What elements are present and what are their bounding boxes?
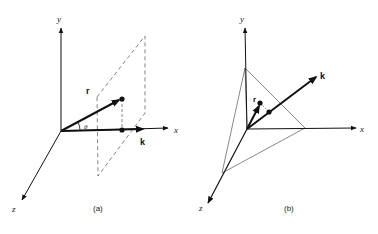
r-tip-point — [119, 96, 124, 101]
r-label: r — [86, 86, 90, 96]
z-axis-label: z — [11, 204, 16, 214]
z-axis-label: z — [198, 203, 203, 213]
k-label: k — [140, 137, 146, 147]
vector-plane-diagram: y x z r θ k (a) y x z r k (b) — [0, 0, 378, 234]
k-label: k — [320, 71, 326, 81]
k-vector — [247, 77, 316, 129]
r-label: r — [253, 95, 256, 104]
k-vector — [61, 129, 143, 131]
r-vector — [61, 100, 119, 131]
theta-label: θ — [84, 123, 88, 131]
panel-a-caption: (a) — [93, 204, 103, 213]
x-axis-label: x — [173, 125, 178, 135]
x-axis-label: x — [359, 124, 364, 134]
z-axis — [22, 131, 61, 200]
projection-point — [119, 127, 124, 132]
r-tip-point — [257, 100, 262, 105]
panel-b-caption: (b) — [284, 204, 294, 213]
dashed-plane — [97, 36, 145, 176]
panel-b: y x z r k (b) — [198, 14, 364, 213]
theta-arc — [78, 122, 80, 131]
projection-point — [266, 109, 271, 114]
y-axis-label: y — [239, 14, 244, 24]
z-axis — [208, 129, 247, 203]
plane-triangle — [222, 68, 305, 173]
x-axis — [247, 128, 356, 129]
y-axis-label: y — [56, 14, 61, 24]
panel-a: y x z r θ k (a) — [11, 14, 178, 214]
